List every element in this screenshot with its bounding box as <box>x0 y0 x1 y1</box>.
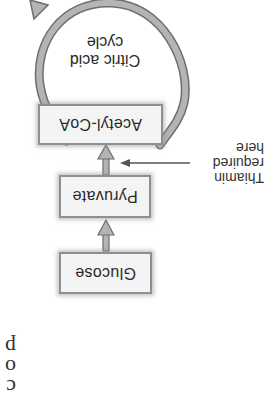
thiamin-pointer-arrow-icon <box>120 159 190 167</box>
diagram-stage: Glucose Pyruvate Acetyl-CoA Citric acid … <box>0 0 280 403</box>
glucose-label: Glucose <box>75 264 136 282</box>
glucose-box: Glucose <box>59 252 152 294</box>
acetyl-coa-label: Acetyl-CoA <box>59 116 142 134</box>
arrow-pyruvate-to-acetylcoa-icon <box>98 145 114 175</box>
thiamin-annotation: Thiamin required here <box>192 140 264 185</box>
pyruvate-label: Pyruvate <box>72 188 138 206</box>
arrow-glucose-to-pyruvate-icon <box>98 220 114 251</box>
pyruvate-box: Pyruvate <box>59 175 151 218</box>
acetyl-coa-box: Acetyl-CoA <box>38 104 163 145</box>
citric-acid-cycle-label: Citric acid cycle <box>50 33 160 69</box>
page-text-fragments: c o p <box>0 337 16 397</box>
